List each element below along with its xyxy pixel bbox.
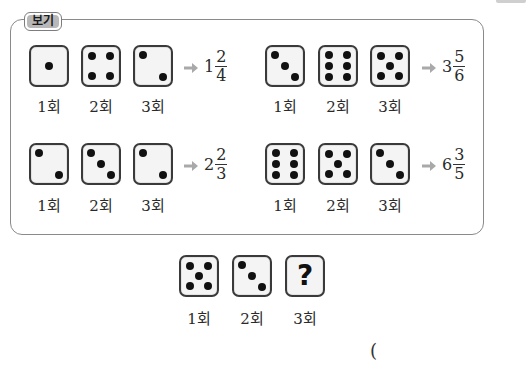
die-pip	[325, 51, 333, 59]
trial-label: 3회	[368, 197, 412, 215]
arrow-right-icon	[421, 160, 437, 172]
die-pip	[272, 149, 280, 157]
die-pip	[325, 170, 333, 178]
die-pip	[291, 73, 299, 81]
trial-label: 2회	[79, 98, 123, 116]
trial-label: 2회	[79, 197, 123, 215]
mixed-number-result: 1 2 4	[204, 46, 227, 86]
die-pip	[204, 282, 212, 290]
die-pip	[334, 160, 342, 168]
die-pip	[325, 150, 333, 158]
die-pip	[376, 149, 384, 157]
die-pip	[35, 149, 43, 157]
example-label-text: 보기	[32, 14, 54, 28]
die-pip	[395, 72, 403, 80]
mixed-number-result: 6 3 5	[442, 144, 465, 184]
die-pip	[107, 171, 115, 179]
result-denominator: 3	[216, 165, 226, 182]
trial-label: 1회	[27, 98, 71, 116]
die-face-5	[370, 45, 410, 87]
die-pip	[204, 262, 212, 270]
answer-blank-paren: (	[370, 340, 377, 361]
trial-label: 3회	[131, 98, 175, 116]
question-mark-icon: ?	[287, 260, 323, 292]
page-corner-tab	[496, 0, 526, 3]
die-pip	[343, 62, 351, 70]
die-face-2	[133, 143, 173, 185]
die-pip	[55, 171, 63, 179]
trial-label: 1회	[177, 310, 221, 328]
die-pip	[343, 51, 351, 59]
trial-label: 2회	[316, 98, 360, 116]
die-pip	[325, 62, 333, 70]
die-pip	[272, 160, 280, 168]
die-pip	[88, 52, 96, 60]
die-pip	[248, 272, 256, 280]
example-label: 보기	[24, 12, 62, 31]
result-denominator: 4	[216, 67, 226, 84]
die-pip	[386, 62, 394, 70]
die-pip	[386, 160, 394, 168]
trial-label: 1회	[263, 197, 307, 215]
result-whole: 1	[204, 57, 214, 76]
result-fraction: 5 6	[453, 49, 465, 84]
die-face-3	[232, 255, 272, 297]
trial-label: 1회	[27, 197, 71, 215]
mixed-number-result: 2 2 3	[204, 144, 227, 184]
result-whole: 2	[204, 155, 214, 174]
die-face-5	[179, 255, 219, 297]
die-pip	[238, 261, 246, 269]
die-pip	[258, 283, 266, 291]
die-pip	[395, 52, 403, 60]
result-fraction: 3 5	[453, 147, 465, 182]
die-pip	[377, 52, 385, 60]
die-face-3	[265, 45, 305, 87]
die-face-2	[133, 45, 173, 87]
result-whole: 3	[442, 57, 452, 76]
die-face-6	[318, 45, 358, 87]
die-pip	[343, 150, 351, 158]
die-pip	[377, 72, 385, 80]
result-fraction: 2 3	[215, 147, 227, 182]
die-pip	[343, 73, 351, 81]
arrow-right-icon	[421, 62, 437, 74]
trial-label: 3회	[283, 310, 327, 328]
result-numerator: 3	[453, 147, 465, 165]
die-pip	[281, 62, 289, 70]
die-pip	[87, 149, 95, 157]
result-denominator: 6	[454, 67, 464, 84]
mixed-number-result: 3 5 6	[442, 46, 465, 86]
result-numerator: 2	[215, 49, 227, 67]
die-pip	[97, 160, 105, 168]
die-pip	[325, 73, 333, 81]
die-pip	[271, 51, 279, 59]
result-fraction: 2 4	[215, 49, 227, 84]
die-pip	[290, 160, 298, 168]
die-pip	[290, 149, 298, 157]
die-pip	[396, 171, 404, 179]
die-face-1	[29, 45, 69, 87]
die-pip	[290, 171, 298, 179]
die-face-6	[265, 143, 305, 185]
die-face-3	[370, 143, 410, 185]
die-face-5	[318, 143, 358, 185]
result-whole: 6	[442, 155, 452, 174]
arrow-right-icon	[183, 62, 199, 74]
die-pip	[139, 51, 147, 59]
die-pip	[106, 52, 114, 60]
trial-label: 2회	[230, 310, 274, 328]
die-pip	[343, 170, 351, 178]
trial-label: 2회	[316, 197, 360, 215]
die-pip	[159, 73, 167, 81]
die-face-4	[81, 45, 121, 87]
arrow-right-icon	[183, 160, 199, 172]
die-pip	[159, 171, 167, 179]
die-pip	[139, 149, 147, 157]
die-pip	[45, 62, 53, 70]
unknown-die: ?	[285, 255, 325, 297]
trial-label: 3회	[131, 197, 175, 215]
die-face-2	[29, 143, 69, 185]
die-pip	[106, 72, 114, 80]
result-numerator: 5	[453, 49, 465, 67]
die-pip	[195, 272, 203, 280]
